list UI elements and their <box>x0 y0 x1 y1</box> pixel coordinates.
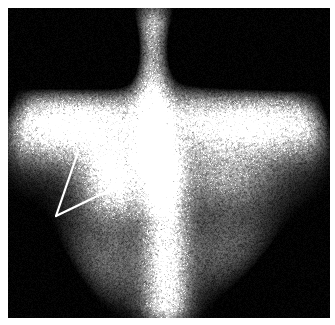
scintigram-plate <box>8 8 330 318</box>
scintigram-image <box>8 8 330 318</box>
scan-viewer <box>0 0 335 325</box>
